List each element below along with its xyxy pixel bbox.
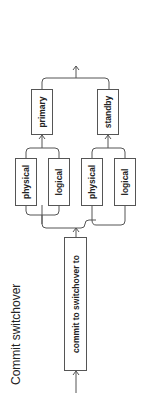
standby-physical-label: physical (87, 165, 97, 199)
standby-logical-label: logical (120, 169, 130, 196)
diagram-title: Commit switchover (9, 284, 23, 385)
commit-to-switchover-label: commit to switchover to (71, 255, 81, 353)
standby-label: standby (103, 95, 113, 128)
primary-physical-label: physical (21, 165, 31, 199)
primary-box: primary (32, 90, 53, 135)
standby-merge-connector (92, 135, 125, 158)
primary-merge-connector (26, 135, 59, 158)
branch-connector-lower (42, 205, 96, 228)
primary-logical-box: logical (49, 159, 70, 206)
standby-physical-box: physical (82, 159, 103, 206)
primary-physical-box: physical (16, 159, 37, 206)
syntax-diagram: commit to switchover to physical logical… (0, 0, 147, 403)
standby-logical-box: logical (115, 159, 136, 206)
primary-logical-label: logical (54, 169, 64, 196)
split-arrow (73, 228, 79, 237)
commit-to-switchover-box: commit to switchover to (65, 238, 87, 371)
top-merge-connector (42, 66, 109, 89)
entry-arrow (73, 371, 79, 393)
branch-connector-right-split (92, 205, 125, 225)
primary-label: primary (37, 96, 47, 127)
standby-box: standby (98, 90, 119, 135)
